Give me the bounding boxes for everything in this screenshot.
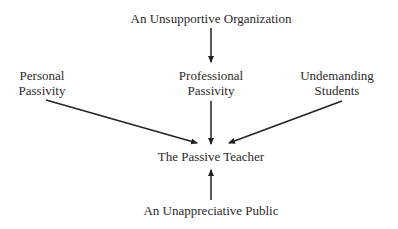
- node-professional-passivity: Professional Passivity: [168, 68, 254, 98]
- node-label-line1: Undemanding: [294, 68, 380, 83]
- node-label: An Unsupportive Organization: [131, 11, 292, 26]
- node-label-line2: Passivity: [168, 83, 254, 98]
- node-undemanding-students: Undemanding Students: [294, 68, 380, 98]
- node-personal-passivity: Personal Passivity: [10, 68, 74, 98]
- node-label-line2: Passivity: [10, 83, 74, 98]
- edge-students-to-teacher: [229, 101, 342, 143]
- node-unappreciative-public: An Unappreciative Public: [131, 203, 291, 218]
- node-label-line1: Professional: [168, 68, 254, 83]
- diagram-edges: [0, 0, 398, 229]
- edge-personal-to-teacher: [46, 100, 197, 143]
- node-unsupportive-organization: An Unsupportive Organization: [110, 11, 312, 26]
- node-passive-teacher: The Passive Teacher: [146, 149, 276, 164]
- node-label-line1: Personal: [10, 68, 74, 83]
- node-label: An Unappreciative Public: [143, 203, 278, 218]
- node-label: The Passive Teacher: [158, 149, 264, 164]
- node-label-line2: Students: [294, 83, 380, 98]
